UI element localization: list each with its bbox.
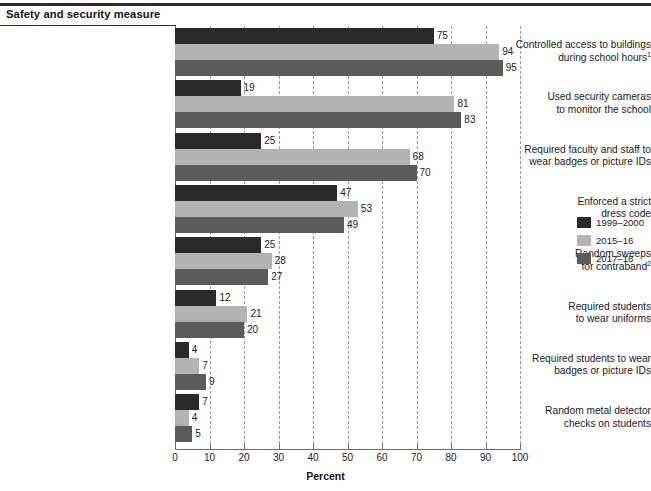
gridline-30 — [279, 26, 280, 449]
bar-value-label: 81 — [457, 96, 468, 112]
bar — [175, 112, 461, 128]
bar-value-label: 27 — [271, 269, 282, 285]
tick-label-20: 20 — [238, 452, 249, 463]
tick-90 — [486, 444, 487, 450]
bar-value-label: 4 — [192, 410, 198, 426]
bar — [175, 410, 189, 426]
tick-100 — [520, 444, 521, 450]
tick-label-30: 30 — [273, 452, 284, 463]
page-title: Safety and security measure — [6, 8, 160, 20]
tick-label-40: 40 — [307, 452, 318, 463]
legend-swatch-icon — [577, 253, 591, 264]
legend-label: 2015–16 — [596, 235, 633, 246]
tick-label-80: 80 — [445, 452, 456, 463]
tick-label-10: 10 — [204, 452, 215, 463]
bar-value-label: 20 — [247, 322, 258, 338]
tick-40 — [313, 444, 314, 450]
bar-value-label: 4 — [192, 342, 198, 358]
bar — [175, 322, 244, 338]
bar — [175, 374, 206, 390]
bar-value-label: 83 — [464, 112, 475, 128]
category-label: Required faculty and staff towear badges… — [483, 144, 651, 169]
tick-60 — [382, 444, 383, 450]
bar-value-label: 7 — [202, 394, 208, 410]
legend-swatch-icon — [577, 235, 591, 246]
bar — [175, 394, 199, 410]
header-top-rule — [0, 3, 651, 6]
tick-label-100: 100 — [512, 452, 529, 463]
tick-label-70: 70 — [411, 452, 422, 463]
bar — [175, 290, 216, 306]
bar-value-label: 12 — [219, 290, 230, 306]
bar — [175, 149, 410, 165]
tick-20 — [244, 444, 245, 450]
bar-value-label: 9 — [209, 374, 215, 390]
bar-value-label: 5 — [195, 426, 201, 442]
bar — [175, 237, 261, 253]
bar-value-label: 25 — [264, 237, 275, 253]
bar-value-label: 25 — [264, 133, 275, 149]
bar-value-label: 7 — [202, 358, 208, 374]
gridline-40 — [313, 26, 314, 449]
footnote-marker: 1 — [647, 50, 651, 57]
bar-value-label: 49 — [347, 217, 358, 233]
bar — [175, 269, 268, 285]
bar — [175, 133, 261, 149]
legend-item: 2015–16 — [577, 233, 651, 248]
legend-item: 1999–2000 — [577, 215, 651, 230]
bar-value-label: 75 — [437, 28, 448, 44]
gridline-50 — [348, 26, 349, 449]
bar-value-label: 21 — [250, 306, 261, 322]
gridline-100 — [520, 26, 521, 449]
bar — [175, 44, 499, 60]
bar — [175, 426, 192, 442]
tick-50 — [348, 444, 349, 450]
gridline-90 — [486, 26, 487, 449]
category-label: Used security camerasto monitor the scho… — [483, 91, 651, 116]
legend-label: 1999–2000 — [596, 217, 644, 228]
category-label: Required students to wearbadges or pictu… — [483, 353, 651, 378]
gridline-60 — [382, 26, 383, 449]
bar — [175, 342, 189, 358]
bar — [175, 165, 417, 181]
tick-10 — [210, 444, 211, 450]
x-axis-title: Percent — [0, 470, 651, 482]
bar — [175, 60, 503, 76]
chart-figure: Safety and security measure 759495198183… — [0, 0, 651, 491]
bar — [175, 96, 454, 112]
category-label: Required studentsto wear uniforms — [483, 301, 651, 326]
header-underline — [0, 25, 176, 26]
gridline-80 — [451, 26, 452, 449]
bar — [175, 201, 358, 217]
bar-value-label: 70 — [420, 165, 431, 181]
tick-80 — [451, 444, 452, 450]
tick-label-0: 0 — [172, 452, 178, 463]
bar-value-label: 53 — [361, 201, 372, 217]
bar-value-label: 68 — [413, 149, 424, 165]
plot-area: 7594951981832568704753492528271221204797… — [175, 26, 520, 449]
tick-label-90: 90 — [480, 452, 491, 463]
bar-value-label: 19 — [244, 80, 255, 96]
bar — [175, 306, 247, 322]
tick-30 — [279, 444, 280, 450]
bar — [175, 217, 344, 233]
category-label: Controlled access to buildingsduring sch… — [483, 39, 651, 64]
bar — [175, 80, 241, 96]
tick-0 — [175, 444, 176, 450]
bar — [175, 253, 272, 269]
tick-label-60: 60 — [376, 452, 387, 463]
chart-legend: 1999–20002015–162017–18 — [577, 215, 651, 269]
legend-item: 2017–18 — [577, 251, 651, 266]
gridline-70 — [417, 26, 418, 449]
tick-70 — [417, 444, 418, 450]
legend-swatch-icon — [577, 217, 591, 228]
legend-label: 2017–18 — [596, 253, 633, 264]
bar — [175, 358, 199, 374]
bar — [175, 28, 434, 44]
bar-value-label: 47 — [340, 185, 351, 201]
tick-label-50: 50 — [342, 452, 353, 463]
bar — [175, 185, 337, 201]
category-label: Random metal detectorchecks on students — [483, 405, 651, 430]
bar-value-label: 28 — [275, 253, 286, 269]
